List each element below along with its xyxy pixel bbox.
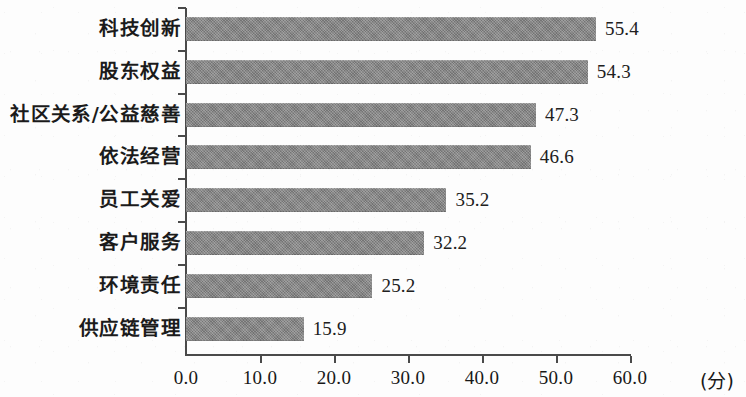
bar[interactable]	[186, 274, 372, 298]
bar-row: 46.6	[186, 145, 630, 169]
category-label-text: 依法经营	[99, 145, 181, 169]
bar[interactable]	[186, 317, 304, 341]
category-label: 科技创新	[0, 17, 181, 41]
x-axis-tick-label: 50.0	[521, 366, 591, 390]
bar-row: 47.3	[186, 103, 630, 127]
bar-value-label: 32.2	[433, 230, 467, 256]
x-axis-tick	[334, 356, 336, 363]
bar[interactable]	[186, 60, 588, 84]
bar-value-label: 46.6	[540, 144, 574, 170]
category-label-text: 供应链管理	[79, 317, 181, 341]
x-axis-tick-label: 0.0	[151, 366, 221, 390]
bar[interactable]	[186, 145, 531, 169]
bar-row: 15.9	[186, 317, 630, 341]
y-axis-tick	[178, 135, 186, 137]
x-axis-tick-label: 10.0	[225, 366, 295, 390]
bar-row: 54.3	[186, 60, 630, 84]
y-axis-tick	[178, 93, 186, 95]
plot-area: 55.454.347.346.635.232.225.215.9	[186, 8, 630, 355]
x-axis-tick-label: 20.0	[299, 366, 369, 390]
bar-row: 25.2	[186, 274, 630, 298]
category-label: 环境责任	[0, 274, 181, 298]
category-label: 供应链管理	[0, 317, 181, 341]
x-axis-tick	[556, 356, 558, 363]
x-axis-tick	[408, 356, 410, 363]
category-label: 员工关爱	[0, 188, 181, 212]
bar[interactable]	[186, 103, 536, 127]
bar-value-label: 54.3	[597, 59, 631, 85]
bar-value-label: 55.4	[605, 16, 639, 42]
y-axis-tick	[178, 50, 186, 52]
category-label: 社区关系/公益慈善	[0, 103, 181, 127]
x-axis-unit-label: (分)	[700, 369, 734, 393]
y-axis-tick	[178, 178, 186, 180]
chart-page: 科技创新股东权益社区关系/公益慈善依法经营员工关爱客户服务环境责任供应链管理 5…	[0, 0, 746, 397]
bar-value-label: 25.2	[381, 273, 415, 299]
y-axis-tick	[178, 7, 186, 9]
category-label-text: 员工关爱	[99, 188, 181, 212]
bar-value-label: 15.9	[313, 316, 347, 342]
x-axis-tick	[630, 356, 632, 363]
bar-row: 35.2	[186, 188, 630, 212]
x-axis-tick-label: 40.0	[447, 366, 517, 390]
category-label-text: 客户服务	[99, 231, 181, 255]
bar[interactable]	[186, 231, 424, 255]
bar-value-label: 35.2	[455, 187, 489, 213]
bar[interactable]	[186, 17, 596, 41]
x-axis-tick-label: 60.0	[595, 366, 665, 390]
category-label-text: 股东权益	[99, 60, 181, 84]
y-axis-tick	[178, 307, 186, 309]
bar[interactable]	[186, 188, 446, 212]
x-axis-tick-label: 30.0	[373, 366, 443, 390]
category-label-text: 社区关系/公益慈善	[10, 103, 181, 127]
y-axis-tick	[178, 264, 186, 266]
x-axis-tick	[260, 356, 262, 363]
bar-row: 32.2	[186, 231, 630, 255]
category-label: 股东权益	[0, 60, 181, 84]
bar-value-label: 47.3	[545, 102, 579, 128]
category-label: 客户服务	[0, 231, 181, 255]
x-axis-tick	[482, 356, 484, 363]
category-label: 依法经营	[0, 145, 181, 169]
category-label-text: 科技创新	[99, 17, 181, 41]
category-label-text: 环境责任	[99, 274, 181, 298]
y-axis-tick	[178, 221, 186, 223]
bar-row: 55.4	[186, 17, 630, 41]
